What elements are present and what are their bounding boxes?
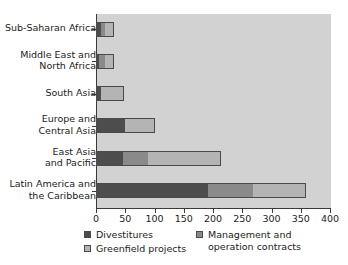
x-axis-tick-label: 150 — [169, 213, 199, 224]
bar-segment-management — [208, 183, 253, 198]
bar-segment-management — [123, 151, 148, 166]
bar-segment-greenfield — [105, 22, 114, 37]
x-axis-tick-label: 200 — [198, 213, 228, 224]
y-axis-label: Sub-Saharan Africa — [4, 22, 96, 34]
y-axis-label: Europe and Central Asia — [4, 113, 96, 136]
legend-swatch-icon — [196, 231, 203, 238]
x-axis-tick-label: 350 — [286, 213, 316, 224]
legend-label: Divestitures — [96, 229, 153, 241]
bar-segment-greenfield — [125, 118, 154, 133]
bar-segment-divestitures — [96, 183, 208, 198]
legend-column: DivestituresGreenfield projects — [84, 229, 186, 256]
legend-swatch-icon — [84, 245, 91, 252]
bar-row — [96, 54, 114, 69]
y-axis-tick — [92, 61, 96, 62]
bar-row — [96, 86, 124, 101]
bar-segment-divestitures — [96, 151, 123, 166]
bar-segment-greenfield — [105, 54, 114, 69]
y-axis-label: Middle East and North Africa — [4, 49, 96, 72]
plot-area — [96, 14, 331, 208]
legend-label: Greenfield projects — [96, 243, 186, 255]
x-axis-tick-label: 100 — [140, 213, 170, 224]
x-axis-tick-label: 50 — [110, 213, 140, 224]
bar-segment-greenfield — [148, 151, 221, 166]
legend-label: Management and operation contracts — [208, 229, 301, 252]
x-axis-tick-label: 400 — [315, 213, 345, 224]
y-axis-tick — [92, 29, 96, 30]
y-axis-tick — [92, 94, 96, 95]
y-axis-tick — [92, 126, 96, 127]
legend-item[interactable]: Greenfield projects — [84, 243, 186, 255]
bar-row — [96, 183, 306, 198]
bar-segment-greenfield — [101, 86, 124, 101]
bar-segment-divestitures — [96, 118, 125, 133]
bar-row — [96, 151, 221, 166]
legend-item[interactable]: Divestitures — [84, 229, 186, 241]
y-axis-tick — [92, 191, 96, 192]
legend-column: Management and operation contracts — [196, 229, 301, 254]
y-axis-label: Latin America and the Caribbean — [4, 178, 96, 201]
y-axis-tick — [92, 158, 96, 159]
x-axis-tick-label: 0 — [81, 213, 111, 224]
bar-row — [96, 118, 155, 133]
legend-swatch-icon — [84, 231, 91, 238]
bar-segment-greenfield — [253, 183, 306, 198]
y-axis-label: East Asia and Pacific — [4, 146, 96, 169]
x-axis-tick-label: 250 — [227, 213, 257, 224]
y-axis-label: South Asia — [4, 87, 96, 99]
horizontal-stacked-bar-chart: Sub-Saharan AfricaMiddle East and North … — [0, 0, 348, 265]
legend-item[interactable]: Management and operation contracts — [196, 229, 301, 252]
bar-row — [96, 22, 114, 37]
x-axis-tick-label: 300 — [257, 213, 287, 224]
